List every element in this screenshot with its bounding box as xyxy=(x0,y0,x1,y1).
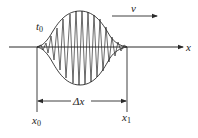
x-axis-label: x xyxy=(185,41,191,53)
x1-label: x1 xyxy=(121,111,131,125)
wave-packet-diagram: t0 v x Δx x0 x1 xyxy=(0,0,198,138)
time-label: t0 xyxy=(36,20,43,34)
x0-label: x0 xyxy=(31,114,41,128)
envelope-lower xyxy=(37,47,127,85)
velocity-label: v xyxy=(131,2,136,14)
delta-x-label: Δx xyxy=(72,95,84,107)
wave-oscillation xyxy=(37,11,127,85)
